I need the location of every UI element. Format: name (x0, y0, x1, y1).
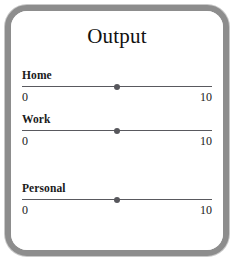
slider-max-label: 10 (200, 203, 212, 217)
slider-track-work[interactable] (22, 130, 212, 132)
slider-row-home[interactable]: Home 0 10 (22, 69, 212, 113)
slider-row-work[interactable]: Work 0 10 (22, 113, 212, 157)
slider-scale: 0 10 (22, 90, 212, 106)
slider-scale: 0 10 (22, 203, 212, 219)
slider-thumb[interactable] (114, 84, 120, 90)
slider-track-personal[interactable] (22, 199, 212, 201)
slider-scale: 0 10 (22, 134, 212, 150)
slider-min-label: 0 (22, 134, 28, 148)
page-title: Output (11, 25, 223, 47)
slider-label: Work (22, 113, 51, 126)
slider-min-label: 0 (22, 90, 28, 104)
slider-label: Home (22, 69, 52, 82)
slider-max-label: 10 (200, 90, 212, 104)
slider-thumb[interactable] (114, 197, 120, 203)
slider-track-home[interactable] (22, 86, 212, 88)
output-panel: Output Home 0 10 Work (5, 5, 229, 256)
output-panel-body: Output Home 0 10 Work (11, 11, 223, 250)
slider-list: Home 0 10 Work 0 10 (22, 69, 212, 226)
slider-thumb[interactable] (114, 128, 120, 134)
slider-min-label: 0 (22, 203, 28, 217)
slider-label: Personal (22, 182, 66, 195)
slider-max-label: 10 (200, 134, 212, 148)
slider-row-personal[interactable]: Personal 0 10 (22, 182, 212, 226)
